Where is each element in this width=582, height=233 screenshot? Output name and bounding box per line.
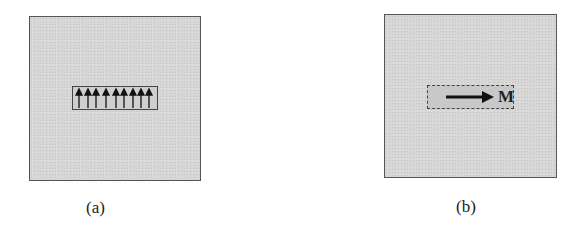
panel-b: M xyxy=(384,14,557,178)
up-arrows-icon xyxy=(73,87,157,109)
magnet-region-magnetization: M xyxy=(427,85,514,109)
magnetization-label: M xyxy=(498,87,514,107)
caption-a: (a) xyxy=(86,198,105,218)
caption-b: (b) xyxy=(456,197,476,217)
magnet-region-dipoles xyxy=(72,86,158,110)
panel-a xyxy=(29,16,201,181)
